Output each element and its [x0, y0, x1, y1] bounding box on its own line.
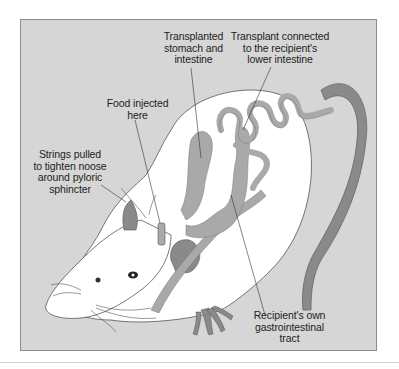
- label-recipient-gi-tract: Recipient's own gastrointestinal tract: [242, 310, 337, 345]
- label-transplant-connected: Transplant connected to the recipient's …: [224, 31, 336, 66]
- rat-nose: [96, 278, 101, 283]
- label-strings-pulled: Strings pulled to tighten noose around p…: [25, 149, 115, 195]
- injection-port: [158, 223, 165, 245]
- page-divider: [0, 362, 399, 363]
- rat-transplant-diagram: Transplanted stomach and intestine Trans…: [20, 19, 377, 351]
- label-food-injected: Food injected here: [100, 98, 175, 121]
